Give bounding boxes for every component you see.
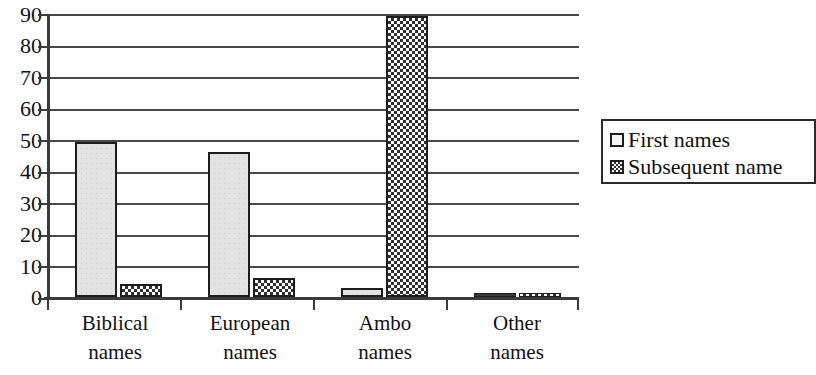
y-tick-mark-50 [38, 140, 47, 142]
x-category-label-ambo: Ambo names [319, 309, 451, 367]
light-square-icon [610, 133, 624, 147]
checkered-square-icon [610, 160, 624, 174]
legend: First names Subsequent name [601, 119, 816, 184]
y-tick-label-80: 80 [2, 35, 42, 57]
gridline-20 [47, 235, 579, 237]
legend-label-subsequent-names: Subsequent name [628, 155, 783, 179]
y-tick-label-20: 20 [2, 224, 42, 246]
y-tick-label-70: 70 [2, 67, 42, 89]
gridline-80 [47, 46, 579, 48]
y-tick-label-40: 40 [2, 161, 42, 183]
y-tick-mark-90 [38, 14, 47, 16]
plot-area [47, 14, 579, 298]
x-category-line2: names [319, 338, 451, 367]
bar-biblical-names-first-names [75, 142, 117, 297]
y-tick-label-60: 60 [2, 98, 42, 120]
legend-entry-first-names: First names [610, 126, 814, 153]
y-tick-mark-30 [38, 203, 47, 205]
x-category-line1: Other [451, 309, 583, 338]
gridline-10 [47, 266, 579, 268]
bar-other-names-subsequent-name [519, 293, 561, 297]
bar-european-names-subsequent-name [253, 278, 295, 297]
y-tick-label-30: 30 [2, 193, 42, 215]
y-axis-tick-labels: 90 80 70 60 50 40 30 20 10 0 [0, 0, 42, 310]
gridline-30 [47, 203, 579, 205]
x-category-line2: names [451, 338, 583, 367]
x-axis-category-labels: Biblical names European names Ambo names… [47, 309, 579, 375]
x-category-line2: names [49, 338, 181, 367]
y-tick-label-0: 0 [2, 287, 42, 309]
gridline-90 [47, 14, 579, 16]
y-tick-label-50: 50 [2, 130, 42, 152]
bar-european-names-first-names [208, 152, 250, 297]
x-category-label-european: European names [184, 309, 316, 367]
bar-biblical-names-subsequent-name [120, 284, 162, 297]
bar-ambo-names-subsequent-name [386, 16, 428, 297]
x-category-line1: European [184, 309, 316, 338]
bar-other-names-first-names [474, 293, 516, 297]
x-category-label-other: Other names [451, 309, 583, 367]
y-tick-mark-10 [38, 266, 47, 268]
y-axis-line [47, 14, 50, 298]
gridline-50 [47, 140, 579, 142]
x-category-label-biblical: Biblical names [49, 309, 181, 367]
y-tick-mark-80 [38, 46, 47, 48]
gridline-70 [47, 77, 579, 79]
legend-label-first-names: First names [628, 128, 730, 152]
x-category-line1: Biblical [49, 309, 181, 338]
gridline-40 [47, 172, 579, 174]
gridline-60 [47, 109, 579, 111]
y-tick-mark-20 [38, 235, 47, 237]
legend-entry-subsequent-names: Subsequent name [610, 153, 814, 180]
y-tick-mark-40 [38, 172, 47, 174]
y-tick-label-10: 10 [2, 256, 42, 278]
x-category-line1: Ambo [319, 309, 451, 338]
x-axis-line [44, 297, 579, 300]
y-tick-mark-70 [38, 77, 47, 79]
y-tick-mark-60 [38, 109, 47, 111]
x-category-line2: names [184, 338, 316, 367]
y-tick-label-90: 90 [2, 4, 42, 26]
bar-ambo-names-first-names [341, 288, 383, 297]
y-tick-mark-0 [38, 298, 47, 300]
